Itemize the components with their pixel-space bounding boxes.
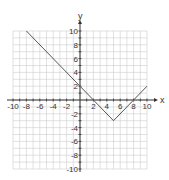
x-tick-label: 4	[105, 102, 110, 111]
y-axis-label: y	[78, 11, 83, 21]
x-tick-label: -10	[7, 102, 19, 111]
y-tick-label: 4	[74, 68, 79, 77]
y-tick-label: -4	[71, 124, 79, 133]
y-tick-label: 10	[69, 27, 78, 36]
y-tick-label: 8	[74, 41, 79, 50]
y-tick-label: -6	[71, 137, 79, 146]
x-tick-label: -2	[63, 102, 71, 111]
x-tick-label: 10	[143, 102, 152, 111]
x-tick-label: -6	[36, 102, 44, 111]
axes	[7, 20, 158, 172]
x-tick-label: -4	[50, 102, 58, 111]
x-axis-arrow-icon	[154, 98, 158, 102]
x-tick-label: 6	[118, 102, 123, 111]
y-tick-label: -8	[71, 151, 79, 160]
x-tick-label: 8	[131, 102, 136, 111]
y-tick-label: 6	[74, 55, 79, 64]
x-tick-label: -8	[23, 102, 31, 111]
y-tick-label: -2	[71, 110, 79, 119]
y-tick-label: -10	[66, 165, 78, 174]
coordinate-plane-chart: -10-8-6-4-2246810108642-2-4-6-8-10 x y	[0, 0, 169, 180]
x-axis-label: x	[160, 95, 165, 105]
x-tick-label: 2	[91, 102, 96, 111]
